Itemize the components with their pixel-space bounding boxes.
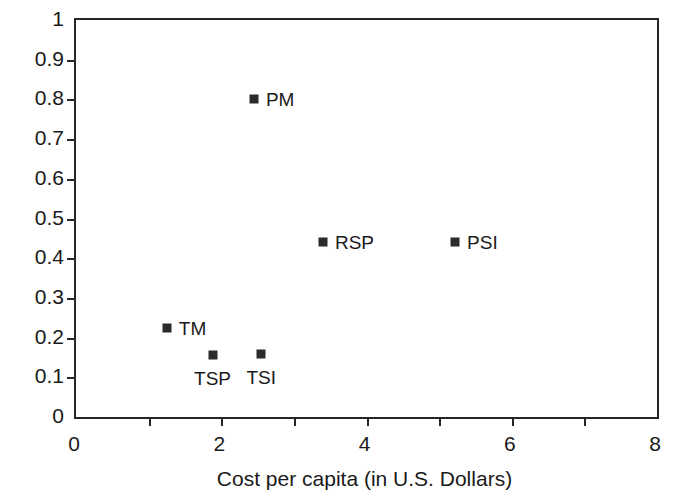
x-tick-label: 6 xyxy=(470,433,550,454)
x-tick-label: 8 xyxy=(615,433,673,454)
x-tick-label: 0 xyxy=(34,433,114,454)
scatter-chart-figure: PMRSPPSITMTSPTSI 00.10.20.30.40.50.60.70… xyxy=(0,0,673,500)
x-tick-label: 4 xyxy=(325,433,405,454)
x-tick-label: 2 xyxy=(179,433,259,454)
x-axis-title: Cost per capita (in U.S. Dollars) xyxy=(74,468,655,489)
x-axis-tick-labels: 02468 xyxy=(0,0,673,500)
